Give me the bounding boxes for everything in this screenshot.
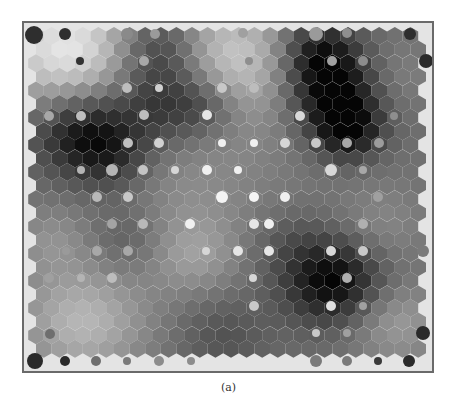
- figure-caption: (a): [0, 381, 457, 394]
- hit-marker: [123, 192, 133, 202]
- hit-marker: [155, 84, 163, 92]
- hit-marker: [358, 246, 368, 256]
- hit-marker: [264, 246, 274, 256]
- hit-marker: [139, 110, 149, 120]
- hit-marker: [403, 355, 415, 367]
- hit-marker: [312, 329, 320, 337]
- hit-marker: [202, 165, 212, 175]
- hit-marker: [373, 192, 383, 202]
- hit-marker: [187, 357, 195, 365]
- hit-marker: [249, 274, 257, 282]
- hit-marker: [280, 192, 290, 202]
- hit-marker: [358, 219, 368, 229]
- hit-marker: [417, 245, 429, 257]
- hit-marker: [234, 166, 242, 174]
- hit-marker: [325, 164, 337, 176]
- hit-marker: [390, 112, 398, 120]
- hit-marker: [238, 28, 248, 38]
- hit-marker: [245, 57, 253, 65]
- hit-marker: [77, 274, 85, 282]
- hit-marker: [249, 301, 259, 311]
- hit-marker: [249, 192, 259, 202]
- hit-marker: [218, 139, 226, 147]
- hit-marker: [44, 273, 54, 283]
- hit-marker: [374, 138, 384, 148]
- hit-marker: [121, 28, 133, 40]
- hit-marker: [123, 357, 131, 365]
- hit-marker: [264, 219, 274, 229]
- hit-marker: [76, 57, 84, 65]
- hit-marker: [343, 329, 351, 337]
- hit-marker: [138, 165, 148, 175]
- hit-marker: [217, 83, 227, 93]
- hit-marker: [250, 139, 258, 147]
- hit-marker: [416, 326, 430, 340]
- hit-marker: [123, 138, 133, 148]
- hit-marker: [92, 246, 102, 256]
- hit-marker: [122, 83, 132, 93]
- som-hex-grid: [24, 23, 432, 371]
- hit-marker: [327, 56, 337, 66]
- hit-marker: [404, 28, 416, 40]
- hit-marker: [139, 56, 149, 66]
- hit-marker: [107, 273, 117, 283]
- hit-marker: [342, 138, 352, 148]
- hit-marker: [310, 355, 322, 367]
- hit-marker: [92, 192, 102, 202]
- som-umatrix-frame: [22, 21, 434, 373]
- hit-marker: [202, 247, 210, 255]
- hit-marker: [60, 356, 70, 366]
- hit-marker: [374, 357, 382, 365]
- hit-marker: [25, 26, 43, 44]
- hit-marker: [309, 27, 323, 41]
- hit-marker: [359, 166, 367, 174]
- hit-marker: [138, 219, 148, 229]
- hit-marker: [342, 28, 352, 38]
- hit-marker: [77, 166, 85, 174]
- hit-marker: [358, 56, 368, 66]
- hit-marker: [62, 247, 70, 255]
- hit-marker: [154, 138, 164, 148]
- hit-marker: [91, 356, 101, 366]
- hit-marker: [107, 219, 117, 229]
- hit-marker: [233, 246, 243, 256]
- hit-marker: [280, 138, 290, 148]
- hit-marker: [76, 111, 86, 121]
- hit-marker: [202, 110, 212, 120]
- hit-marker: [311, 138, 321, 148]
- hit-marker: [171, 166, 179, 174]
- hit-marker: [154, 356, 164, 366]
- hit-marker: [359, 302, 367, 310]
- hit-marker: [150, 29, 160, 39]
- hit-marker: [342, 273, 352, 283]
- som-figure: (a): [0, 0, 457, 407]
- hit-marker: [59, 28, 71, 40]
- hit-marker: [45, 329, 55, 339]
- hit-marker: [342, 356, 352, 366]
- hit-marker: [106, 164, 118, 176]
- hit-marker: [185, 219, 195, 229]
- hit-marker: [44, 111, 54, 121]
- hit-marker: [123, 246, 133, 256]
- hit-marker: [27, 353, 43, 369]
- hit-marker: [216, 191, 228, 203]
- hit-marker: [326, 301, 336, 311]
- hit-marker: [326, 246, 336, 256]
- hit-marker: [295, 111, 305, 121]
- hit-marker: [249, 219, 259, 229]
- hit-marker: [249, 83, 259, 93]
